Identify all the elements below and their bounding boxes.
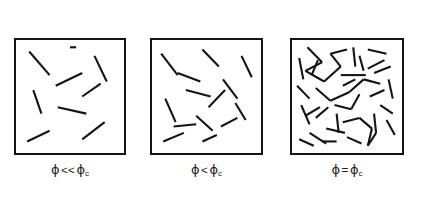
panel-critical <box>290 38 404 155</box>
panel-dilute-caption: ϕ<<ϕc <box>14 163 126 181</box>
phi-c-symbol: ϕ <box>77 162 86 177</box>
panel-dilute <box>14 38 126 155</box>
relation-symbol: << <box>59 164 76 176</box>
panel-subcritical-caption: ϕ<ϕc <box>150 163 263 181</box>
phi-c-subscript: c <box>85 169 89 178</box>
panel-critical-caption: ϕ=ϕc <box>290 163 404 181</box>
top-partial-text <box>168 0 288 6</box>
panel-dilute-sticks <box>14 38 126 155</box>
percolation-figure: ϕ<<ϕc ϕ<ϕc ϕ=ϕc <box>0 0 422 200</box>
phi-c-symbol: ϕ <box>210 162 219 177</box>
phi-c-subscript: c <box>218 169 222 178</box>
phi-symbol: ϕ <box>331 162 340 177</box>
phi-c-subscript: c <box>359 169 363 178</box>
relation-symbol: < <box>199 164 209 176</box>
panel-subcritical-sticks <box>150 38 263 155</box>
panel-critical-sticks <box>290 38 404 155</box>
phi-c-symbol: ϕ <box>350 162 359 177</box>
panel-subcritical <box>150 38 263 155</box>
relation-symbol: = <box>340 164 350 176</box>
